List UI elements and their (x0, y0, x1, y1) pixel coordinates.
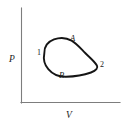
x-axis-label-volume: V (66, 111, 72, 121)
path-label-b: B (59, 71, 64, 80)
pv-diagram-canvas (0, 0, 127, 126)
pv-diagram-figure: P V 1 2 A B (0, 0, 127, 126)
state-point-label-1: 1 (37, 49, 41, 57)
thermodynamic-cycle-loop (44, 38, 97, 77)
cycle-curve-group (44, 38, 97, 77)
axes-group (21, 8, 120, 103)
y-axis-label-pressure: P (9, 55, 15, 65)
state-point-label-2: 2 (100, 61, 104, 69)
path-label-a: A (70, 34, 75, 43)
